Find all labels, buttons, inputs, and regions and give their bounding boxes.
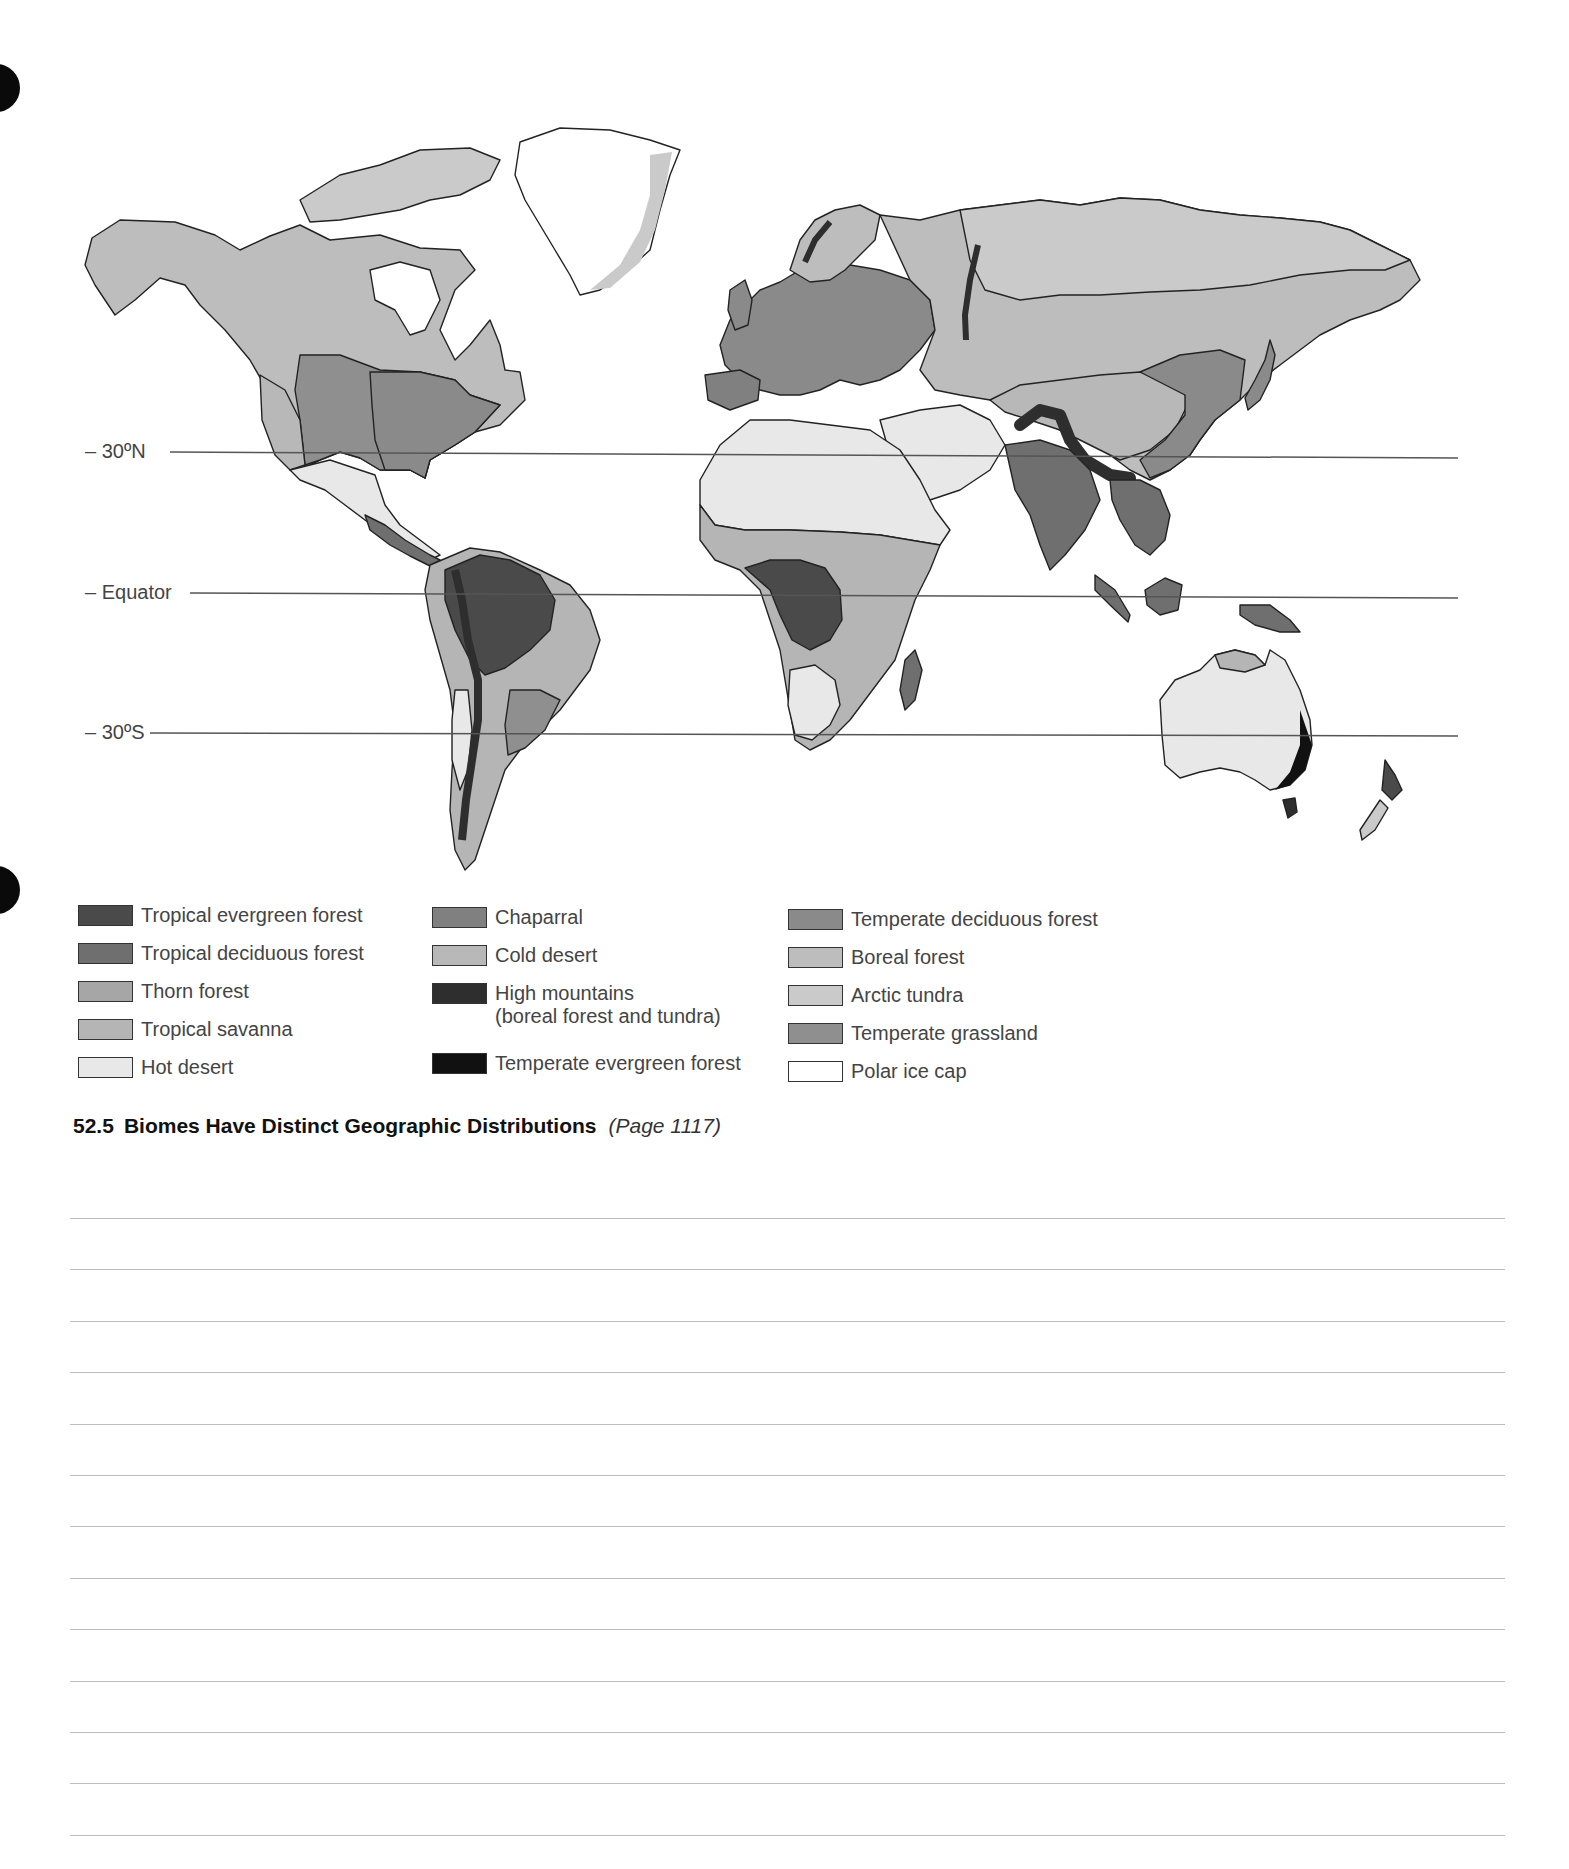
legend-label: Cold desert (495, 944, 597, 967)
legend-swatch (78, 943, 133, 964)
legend-swatch (78, 981, 133, 1002)
legend-label: Boreal forest (851, 946, 964, 969)
legend-label: Tropical evergreen forest (141, 904, 363, 927)
legend-label: High mountains (495, 982, 721, 1005)
legend-label: Chaparral (495, 906, 583, 929)
answer-line[interactable] (70, 1835, 1505, 1836)
legend-label: Temperate deciduous forest (851, 908, 1098, 931)
answer-line[interactable] (70, 1372, 1505, 1373)
legend-item-tropical-savanna: Tropical savanna (78, 1018, 293, 1041)
legend-item-polar-ice-cap: Polar ice cap (788, 1060, 967, 1083)
answer-line[interactable] (70, 1321, 1505, 1322)
legend-swatch (788, 1023, 843, 1044)
answer-line[interactable] (70, 1218, 1505, 1219)
iberia-chaparral (705, 370, 760, 410)
legend-item-arctic-tundra: Arctic tundra (788, 984, 963, 1007)
legend-item-boreal-forest: Boreal forest (788, 946, 964, 969)
legend-label: Tropical deciduous forest (141, 942, 364, 965)
legend-label: Hot desert (141, 1056, 233, 1079)
answer-line[interactable] (70, 1424, 1505, 1425)
legend-label: Thorn forest (141, 980, 249, 1003)
answer-line[interactable] (70, 1526, 1505, 1527)
legend-swatch (432, 1053, 487, 1074)
africa-tropical-evergreen (745, 560, 842, 650)
central-america-tropical-deciduous (365, 515, 440, 566)
answer-line[interactable] (70, 1269, 1505, 1270)
answer-line[interactable] (70, 1783, 1505, 1784)
legend-item-thorn-forest: Thorn forest (78, 980, 249, 1003)
sumatra (1095, 575, 1130, 622)
legend-item-tropical-deciduous-forest: Tropical deciduous forest (78, 942, 364, 965)
madagascar (900, 650, 922, 710)
central-america (290, 460, 440, 560)
answer-line[interactable] (70, 1732, 1505, 1733)
legend-swatch (788, 985, 843, 1006)
legend-swatch (788, 947, 843, 968)
answer-line[interactable] (70, 1681, 1505, 1682)
legend-item-cold-desert: Cold desert (432, 944, 597, 967)
latitude-label-equator: – Equator (85, 582, 172, 602)
legend-swatch (432, 907, 487, 928)
page-reference: (Page 1117) (608, 1114, 720, 1137)
southeast-asia (1110, 480, 1170, 555)
europe (720, 262, 935, 395)
legend-item-chaparral: Chaparral (432, 906, 583, 929)
legend-swatch (432, 945, 487, 966)
tasmania (1283, 798, 1297, 818)
legend-item-temperate-grassland: Temperate grassland (788, 1022, 1038, 1045)
legend-item-high-mountains: High mountains (boreal forest and tundra… (432, 982, 721, 1028)
new-zealand-south (1360, 800, 1388, 840)
legend-label: Temperate evergreen forest (495, 1052, 741, 1075)
legend-swatch (78, 905, 133, 926)
latitude-label-30n: – 30ºN (85, 441, 146, 461)
legend-item-hot-desert: Hot desert (78, 1056, 233, 1079)
legend-label: Tropical savanna (141, 1018, 293, 1041)
legend-item-tropical-evergreen-forest: Tropical evergreen forest (78, 904, 363, 927)
legend-label: Polar ice cap (851, 1060, 967, 1083)
latitude-label-30s: – 30ºS (85, 722, 145, 742)
world-biome-map (0, 0, 1569, 900)
new-guinea (1240, 605, 1300, 632)
legend-label: Arctic tundra (851, 984, 963, 1007)
south-america-temperate-grassland (505, 690, 560, 755)
legend-swatch (78, 1057, 133, 1078)
answer-line[interactable] (70, 1629, 1505, 1630)
legend-swatch (78, 1019, 133, 1040)
new-zealand (1382, 760, 1402, 800)
answer-line[interactable] (70, 1475, 1505, 1476)
legend-swatch (788, 1061, 843, 1082)
figure-caption: 52.5Biomes Have Distinct Geographic Dist… (73, 1114, 721, 1138)
arctic-islands (300, 148, 500, 222)
answer-line[interactable] (70, 1578, 1505, 1579)
legend-label: Temperate grassland (851, 1022, 1038, 1045)
legend-swatch (432, 983, 487, 1004)
legend-swatch (788, 909, 843, 930)
legend-item-temperate-evergreen-forest: Temperate evergreen forest (432, 1052, 741, 1075)
legend-item-temperate-deciduous-forest: Temperate deciduous forest (788, 908, 1098, 931)
figure-number: 52.5 (73, 1114, 114, 1137)
figure-title: Biomes Have Distinct Geographic Distribu… (124, 1114, 597, 1137)
legend-sublabel: (boreal forest and tundra) (495, 1005, 721, 1028)
